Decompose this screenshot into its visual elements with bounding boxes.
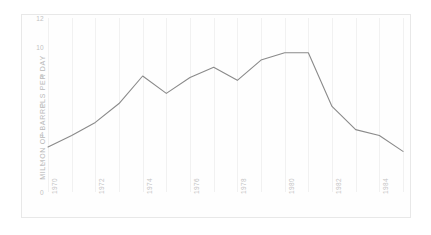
series-polyline	[48, 53, 403, 152]
y-axis-ticks: MILLION OF BARRELS PER DAY 121086420	[18, 18, 44, 192]
chart-canvas: MILLION OF BARRELS PER DAY 121086420 197…	[0, 0, 431, 235]
line-series	[48, 18, 403, 192]
y-tick-label: 12	[22, 15, 44, 22]
y-axis-title: MILLION OF BARRELS PER DAY	[39, 38, 46, 198]
y-tick-label: 6	[22, 102, 44, 109]
plot-area	[48, 18, 403, 192]
y-tick-label: 0	[22, 189, 44, 196]
x-tick-label: 1984	[382, 178, 389, 194]
x-tick-label: 1974	[146, 178, 153, 194]
x-axis-ticks: 19701972197419761978198019821984	[48, 192, 403, 232]
x-tick-label: 1980	[288, 178, 295, 194]
y-tick-label: 2	[22, 160, 44, 167]
y-tick-label: 4	[22, 131, 44, 138]
x-tick-label: 1970	[51, 178, 58, 194]
x-tick-label: 1976	[193, 178, 200, 194]
x-tick-label: 1982	[335, 178, 342, 194]
y-tick-label: 8	[22, 73, 44, 80]
x-tick-label: 1978	[240, 178, 247, 194]
x-tick-label: 1972	[98, 178, 105, 194]
y-tick-label: 10	[22, 44, 44, 51]
